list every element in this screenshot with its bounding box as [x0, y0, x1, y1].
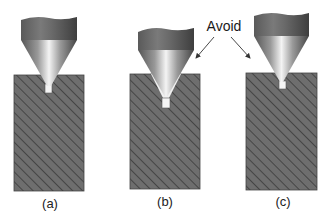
avoid-label: Avoid [207, 18, 242, 34]
panel-label: (c) [275, 194, 290, 209]
panel-a: (a) [14, 17, 84, 211]
panel-c: (c) [246, 13, 317, 209]
arrow-to-b [196, 37, 214, 58]
arrow-to-c [231, 37, 250, 58]
panel-label: (a) [42, 196, 58, 211]
countersink-diagram: (a) (b) (c) Avoid [0, 0, 330, 216]
avoid-annotation: Avoid [196, 18, 250, 58]
drill-shank [254, 13, 309, 36]
pilot-hole [279, 81, 286, 89]
pilot-hole [162, 98, 170, 108]
drill-shank [138, 28, 194, 50]
panel-label: (b) [157, 194, 173, 209]
panel-b: (b) [130, 28, 200, 209]
drill-shank [21, 17, 77, 40]
workpiece-block [246, 73, 317, 190]
